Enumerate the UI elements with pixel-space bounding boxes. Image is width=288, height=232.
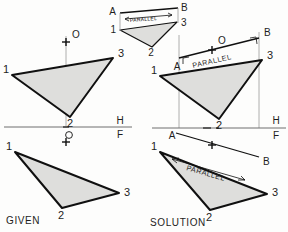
solution-panel-title: SOLUTION: [150, 217, 206, 228]
solution-aux-vertex-3-label: 3: [181, 17, 187, 28]
solution-plane-f-label: F: [273, 130, 279, 141]
given-panel-title: GIVEN: [6, 215, 40, 226]
given-top-vertex-3-label: 3: [118, 47, 124, 59]
solution-top-vertex-2-label: 2: [216, 119, 222, 131]
given-front-triangle-fill: [15, 152, 119, 208]
solution-top-point-a-label: A: [174, 61, 181, 72]
given-top-vertex-2-label: 2: [67, 117, 73, 129]
given-top-point-o-label: O: [72, 29, 80, 40]
given-front-vertex-3-label: 3: [124, 186, 130, 198]
given-front-vertex-1-label: 1: [6, 140, 12, 152]
solution-aux-point-b-label: B: [181, 2, 188, 13]
solution-front-point-b-label: B: [263, 156, 270, 167]
solution-top-view: [160, 32, 262, 128]
given-front-view: [15, 132, 119, 208]
given-top-vertex-1-label: 1: [3, 63, 9, 75]
given-front-point-o-marker: [62, 138, 70, 146]
solution-top-point-o-label: O: [218, 35, 226, 46]
solution-auxiliary-view: [120, 8, 178, 47]
technical-drawing-sheet: 1 3 2 O 1 3 2 H F A B 1 3 2 PARALLEL 1 3…: [0, 0, 288, 232]
solution-front-vertex-2-label: 2: [206, 211, 212, 223]
given-top-view: [12, 36, 113, 126]
given-plane-h-label: H: [116, 115, 123, 126]
given-plane-f-label: F: [117, 129, 123, 140]
solution-top-point-b-label: B: [264, 27, 271, 38]
solution-aux-parallel-label: PARALLEL: [130, 15, 158, 23]
solution-aux-vertex-1-label: 1: [110, 24, 116, 35]
solution-top-vertex-3-label: 3: [267, 49, 273, 61]
given-top-point-o-marker: [62, 38, 70, 46]
solution-top-vertex-1-label: 1: [151, 64, 157, 76]
solution-aux-point-a-label: A: [109, 6, 116, 17]
solution-front-point-a-label: A: [169, 130, 176, 141]
solution-aux-vertex-2-label: 2: [148, 47, 154, 58]
solution-top-angle-mark-a: [183, 57, 189, 64]
given-front-o-circle: [66, 132, 73, 139]
solution-front-vertex-1-label: 1: [151, 140, 157, 152]
given-front-vertex-2-label: 2: [58, 209, 64, 221]
solution-front-vertex-3-label: 3: [272, 186, 278, 198]
solution-front-ab-line: [176, 133, 259, 157]
solution-front-triangle-fill: [160, 152, 267, 210]
solution-aux-ab-line: [120, 8, 178, 13]
solution-plane-h-label: H: [272, 115, 279, 126]
solution-top-point-o-marker: [208, 46, 216, 54]
drawing-canvas: 1 3 2 O 1 3 2 H F A B 1 3 2 PARALLEL 1 3…: [0, 0, 288, 232]
